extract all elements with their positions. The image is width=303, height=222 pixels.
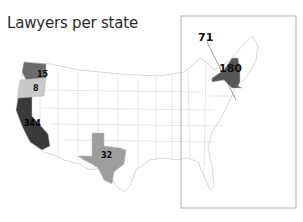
label-texas: 32 xyxy=(101,151,112,160)
label-oregon: 8 xyxy=(33,84,39,93)
label-new-york: 180 xyxy=(219,62,242,75)
label-california: 344 xyxy=(24,119,41,128)
state-oregon[interactable] xyxy=(18,78,46,98)
label-washington: 15 xyxy=(37,70,48,79)
us-map xyxy=(0,0,303,222)
label-mid-atlantic: 71 xyxy=(198,31,213,44)
